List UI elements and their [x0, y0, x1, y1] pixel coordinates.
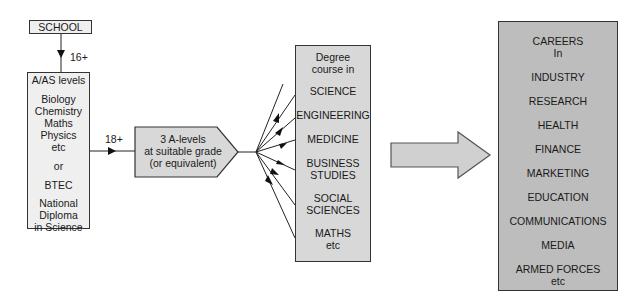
course-maths: MATHS etc [296, 227, 370, 251]
or-label: or [28, 160, 89, 172]
course-line: etc [296, 239, 370, 251]
course-line: BUSINESS [296, 157, 370, 169]
course-science: SCIENCE [296, 85, 370, 97]
career-line: ARMED FORCES [499, 263, 617, 275]
careers-title: CAREERS [499, 35, 617, 47]
diploma-line: Diploma [28, 209, 89, 221]
career-item: MARKETING [499, 167, 617, 179]
course-line: SCIENCES [296, 204, 370, 216]
course-business: BUSINESS STUDIES [296, 157, 370, 181]
subject: Physics [28, 129, 89, 141]
career-item: MEDIA [499, 239, 617, 251]
degree-title: Degree [296, 51, 370, 63]
requirement-line: (or equivalent) [137, 157, 229, 169]
subject: Maths [28, 117, 89, 129]
career-item: FINANCE [499, 143, 617, 155]
right-arrow-icon [108, 147, 116, 155]
course-engineering: ENGINEERING [296, 109, 370, 121]
btec-label: BTEC [28, 179, 89, 191]
career-item: COMMUNICATIONS [499, 215, 617, 227]
requirement-text: 3 A-levels at suitable grade (or equival… [137, 133, 229, 169]
career-item: RESEARCH [499, 95, 617, 107]
subject: etc [28, 141, 89, 153]
age-label-18: 18+ [105, 133, 123, 145]
course-medicine: MEDICINE [296, 133, 370, 145]
course-line: SOCIAL [296, 192, 370, 204]
aas-title: A/AS levels [28, 74, 89, 86]
down-arrow-icon [57, 50, 65, 58]
career-item: EDUCATION [499, 191, 617, 203]
career-item: INDUSTRY [499, 71, 617, 83]
aas-levels-box: A/AS levels Biology Chemistry Maths Phys… [27, 72, 90, 229]
diploma-line: in Science [28, 221, 89, 233]
big-arrow-icon [391, 132, 490, 178]
subject: Chemistry [28, 105, 89, 117]
degree-title: course in [296, 63, 370, 75]
school-box: SCHOOL [29, 20, 92, 34]
degree-box: Degree course in SCIENCE ENGINEERING MED… [295, 45, 371, 262]
diploma-line: National [28, 197, 89, 209]
career-item-armed-forces: ARMED FORCES etc [499, 263, 617, 287]
age-label-16: 16+ [70, 51, 88, 63]
subject: Biology [28, 93, 89, 105]
school-label: SCHOOL [38, 21, 82, 33]
requirement-line: at suitable grade [137, 145, 229, 157]
requirement-line: 3 A-levels [137, 133, 229, 145]
course-social: SOCIAL SCIENCES [296, 192, 370, 216]
careers-title: In [499, 47, 617, 59]
course-line: STUDIES [296, 169, 370, 181]
career-line: etc [499, 275, 617, 287]
fan-arrows [256, 84, 295, 238]
career-item: HEALTH [499, 119, 617, 131]
careers-box: CAREERS In INDUSTRY RESEARCH HEALTH FINA… [498, 21, 618, 291]
course-line: MATHS [296, 227, 370, 239]
